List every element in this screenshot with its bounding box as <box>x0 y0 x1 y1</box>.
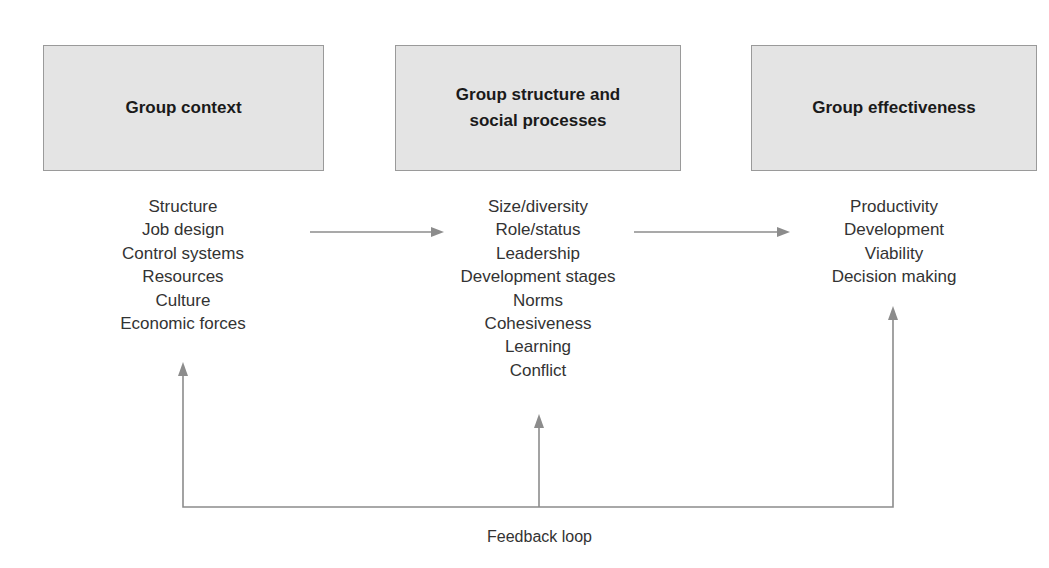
arrowhead-right-icon <box>777 227 790 237</box>
arrowhead-up-icon <box>888 306 898 320</box>
arrowhead-right-icon <box>431 227 444 237</box>
arrowhead-up-icon <box>534 414 544 428</box>
arrowhead-up-icon <box>178 362 188 376</box>
feedback-loop-line <box>183 314 893 507</box>
connector-arrows <box>0 0 1049 568</box>
feedback-loop-label: Feedback loop <box>0 528 1049 546</box>
